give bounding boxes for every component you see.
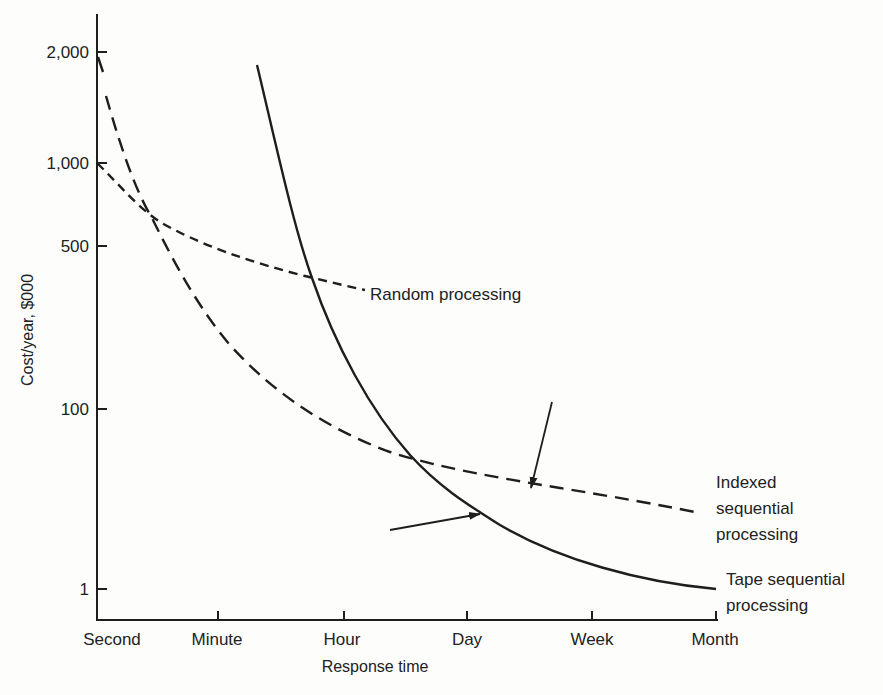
series-tape-sequential — [257, 65, 716, 589]
y-tick-label: 100 — [61, 400, 89, 419]
label-line: Tape sequential — [726, 570, 845, 589]
axes — [96, 14, 718, 621]
x-tick-label: Hour — [324, 630, 361, 649]
label-tape-sequential: Tape sequential processing — [726, 570, 845, 615]
label-line: sequential — [716, 499, 794, 518]
annotation-arrow-tape — [390, 514, 480, 530]
series-indexed-sequential — [106, 96, 700, 513]
x-tick-label: Month — [691, 630, 738, 649]
y-tick-label: 1,000 — [46, 154, 89, 173]
y-tick-label: 2,000 — [46, 43, 89, 62]
series-indexed-sequential — [98, 57, 103, 72]
y-tick-labels: 2,000 1,000 500 100 1 — [46, 43, 89, 599]
label-indexed-sequential: Indexed sequential processing — [716, 473, 798, 544]
x-tick-label: Day — [452, 630, 483, 649]
x-tick-label: Week — [570, 630, 614, 649]
label-line: Indexed — [716, 473, 777, 492]
x-tick-label: Minute — [191, 630, 242, 649]
y-axis-title: Cost/year, $000 — [19, 274, 36, 386]
y-ticks — [97, 52, 107, 589]
y-tick-label: 1 — [80, 580, 89, 599]
x-axis-title: Response time — [322, 658, 429, 675]
series-random-processing — [97, 163, 365, 290]
label-line: processing — [726, 596, 808, 615]
x-tick-labels: Second Minute Hour Day Week Month — [83, 630, 738, 649]
y-tick-label: 500 — [61, 237, 89, 256]
x-tick-label: Second — [83, 630, 141, 649]
label-random-processing: Random processing — [370, 285, 521, 304]
chart: 2,000 1,000 500 100 1 Second Minute Hour… — [0, 0, 883, 695]
label-line: processing — [716, 525, 798, 544]
x-ticks — [218, 611, 716, 620]
annotation-arrow-indexed — [531, 402, 552, 488]
